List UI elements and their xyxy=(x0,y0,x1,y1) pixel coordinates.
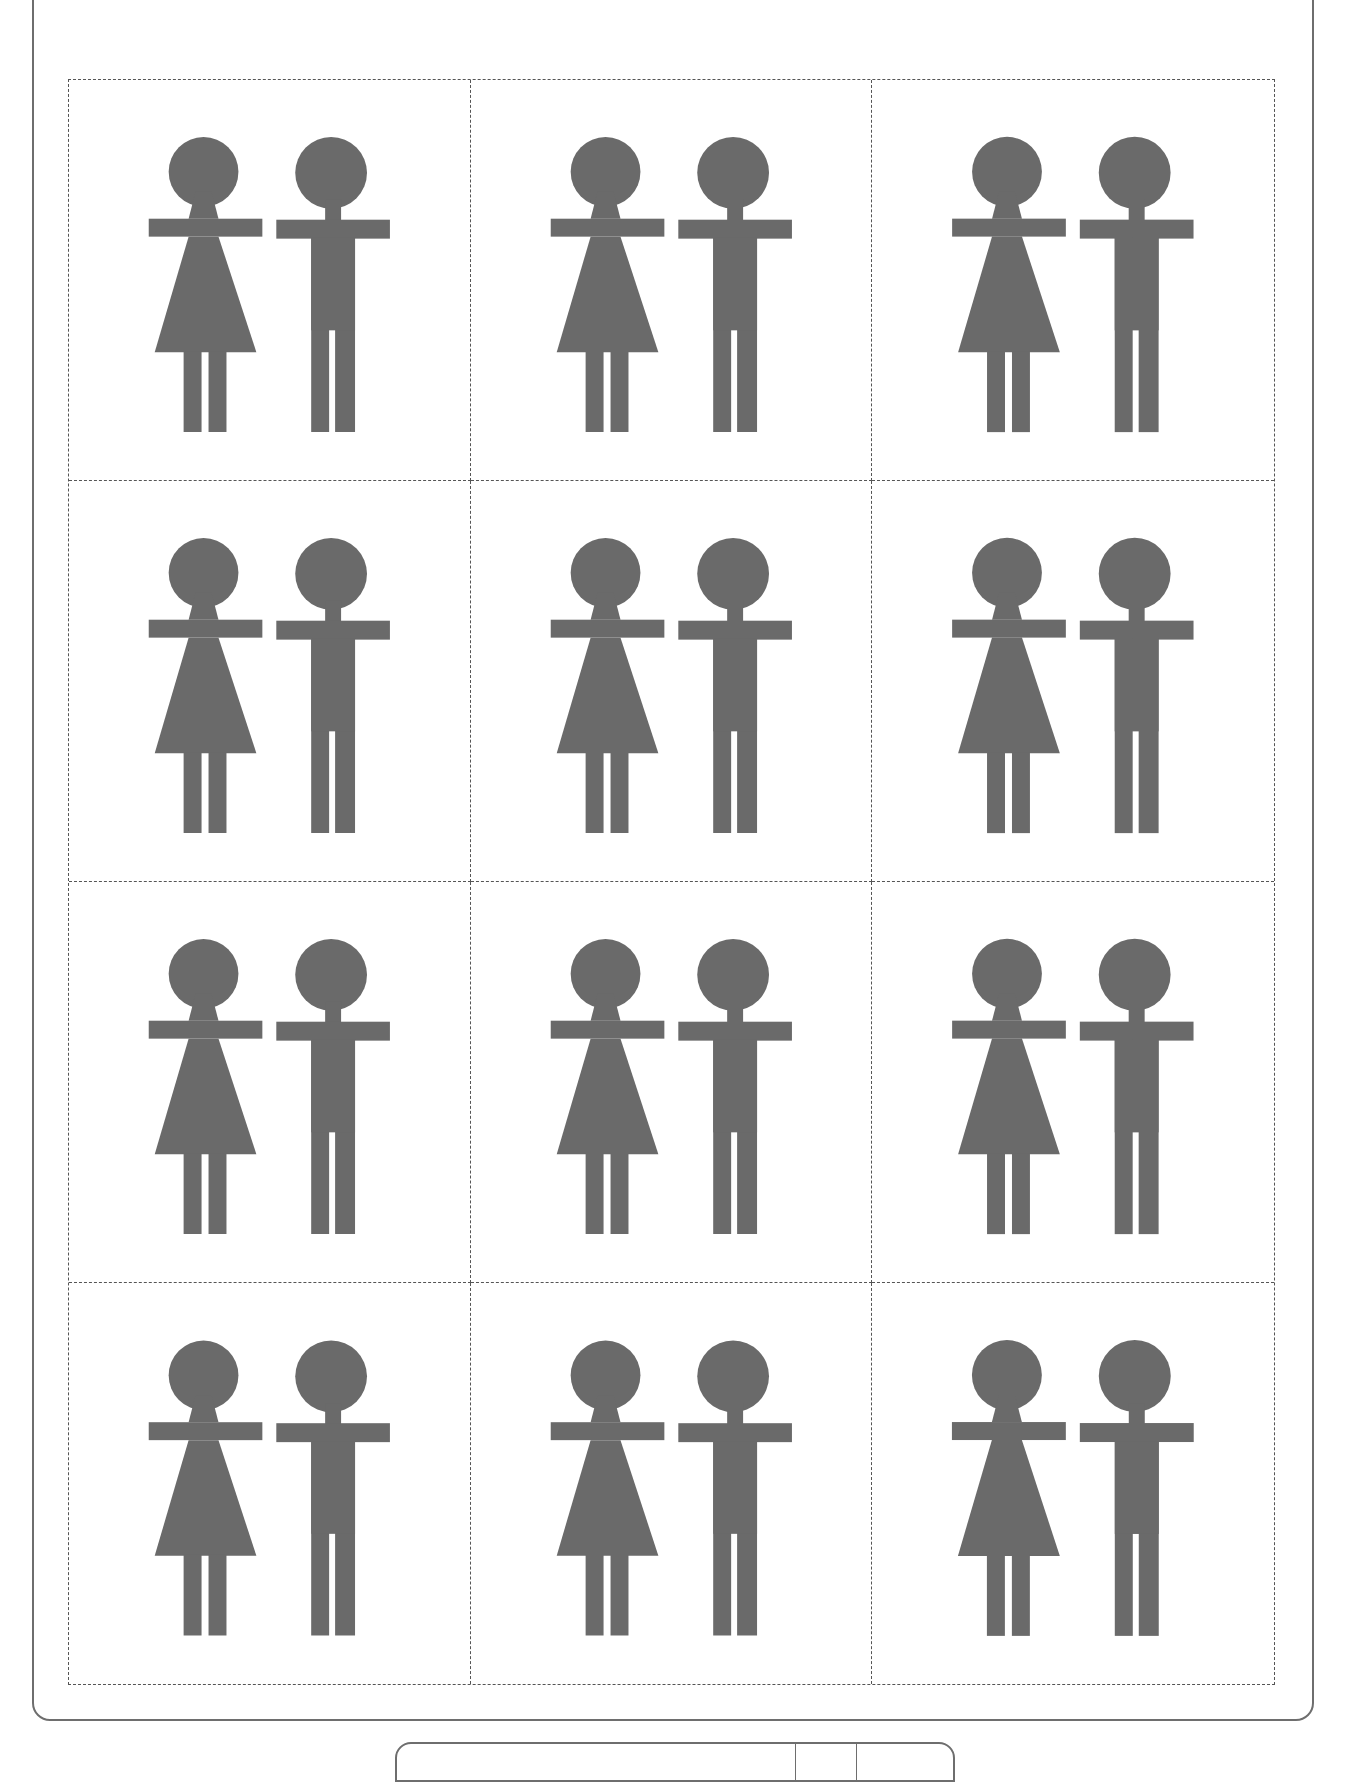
man-icon xyxy=(1080,137,1194,432)
man-icon xyxy=(1080,538,1194,833)
man-icon xyxy=(276,939,390,1234)
footer-segment-1 xyxy=(397,1744,796,1780)
card-r4-c1[interactable] xyxy=(69,1283,471,1684)
woman-icon xyxy=(952,1340,1066,1636)
woman-icon xyxy=(550,1340,664,1635)
woman-icon xyxy=(550,538,664,833)
card-r2-c1[interactable] xyxy=(69,481,471,882)
woman-icon xyxy=(952,538,1066,833)
card-r3-c1[interactable] xyxy=(69,882,471,1283)
woman-icon xyxy=(550,939,664,1234)
card-r2-c3[interactable] xyxy=(872,481,1274,882)
man-icon xyxy=(678,137,792,432)
woman-icon xyxy=(149,137,263,432)
man-icon xyxy=(1080,1340,1194,1636)
woman-icon xyxy=(149,939,263,1234)
man-icon xyxy=(276,538,390,833)
woman-icon xyxy=(149,1340,263,1635)
card-r3-c3[interactable] xyxy=(872,882,1274,1283)
man-icon xyxy=(678,1340,792,1635)
card-r4-c3[interactable] xyxy=(872,1283,1274,1684)
footer-segment-3 xyxy=(857,1744,953,1780)
man-icon xyxy=(276,137,390,432)
woman-icon xyxy=(952,939,1066,1234)
woman-icon xyxy=(952,137,1066,432)
card-r2-c2[interactable] xyxy=(471,481,873,882)
card-r4-c2[interactable] xyxy=(471,1283,873,1684)
man-icon xyxy=(276,1340,390,1635)
card-grid xyxy=(68,79,1275,1685)
card-r1-c2[interactable] xyxy=(471,80,873,481)
footer-segment-2 xyxy=(796,1744,857,1780)
man-icon xyxy=(678,939,792,1234)
woman-icon xyxy=(149,538,263,833)
man-icon xyxy=(678,538,792,833)
footer-label-box xyxy=(395,1742,955,1782)
man-icon xyxy=(1080,939,1194,1234)
card-r3-c2[interactable] xyxy=(471,882,873,1283)
card-r1-c1[interactable] xyxy=(69,80,471,481)
card-r1-c3[interactable] xyxy=(872,80,1274,481)
woman-icon xyxy=(550,137,664,432)
